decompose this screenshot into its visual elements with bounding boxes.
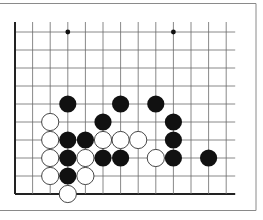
white-stone	[112, 131, 129, 148]
white-stone	[77, 167, 94, 184]
black-stone	[94, 113, 111, 130]
white-stone	[59, 185, 76, 202]
black-stone	[200, 149, 217, 166]
black-stone	[94, 149, 111, 166]
white-stone	[42, 131, 59, 148]
black-stone	[165, 131, 182, 148]
white-stone	[147, 149, 164, 166]
white-stone	[42, 167, 59, 184]
black-stone	[112, 95, 129, 112]
black-stone	[165, 113, 182, 130]
white-stone	[42, 149, 59, 166]
white-stone	[94, 131, 111, 148]
white-stone	[42, 113, 59, 130]
hoshi-point	[171, 30, 176, 35]
black-stone	[59, 167, 76, 184]
go-board-diagram	[0, 0, 263, 220]
black-stone	[77, 131, 94, 148]
white-stone	[77, 149, 94, 166]
white-stone	[130, 131, 147, 148]
black-stone	[112, 149, 129, 166]
hoshi-point	[65, 30, 70, 35]
black-stone	[59, 131, 76, 148]
black-stone	[59, 95, 76, 112]
black-stone	[59, 149, 76, 166]
black-stone	[165, 149, 182, 166]
black-stone	[147, 95, 164, 112]
